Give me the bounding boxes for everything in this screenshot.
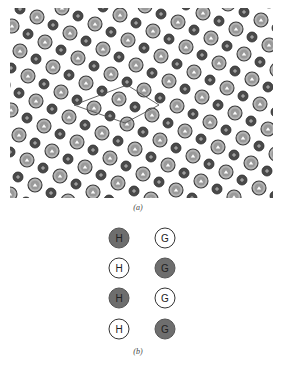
small-atom [138, 127, 148, 137]
large-atom [137, 83, 151, 97]
small-atom [80, 120, 90, 130]
host-guest-diagram: (b) HHHHGGGG [0, 220, 282, 366]
large-atom [21, 69, 35, 83]
small-atom [15, 4, 25, 14]
small-atom [71, 179, 81, 189]
large-atom [162, 74, 176, 88]
large-atom [219, 165, 233, 179]
small-atom [272, 23, 282, 33]
large-atom [212, 56, 226, 70]
small-atom [246, 116, 256, 126]
large-atom [186, 149, 200, 163]
small-atom [47, 104, 57, 114]
triangle-mark-icon [226, 2, 230, 5]
large-atom [13, 44, 27, 58]
large-atom [30, 10, 44, 24]
large-atom [28, 178, 42, 192]
large-atom [237, 47, 251, 61]
small-atom [139, 43, 149, 53]
large-atom [71, 51, 85, 65]
small-atom [197, 50, 207, 60]
small-atom [213, 100, 223, 110]
small-atom [98, 2, 108, 12]
plus-mark-icon [184, 3, 188, 7]
large-atom [79, 76, 93, 90]
small-atom [56, 45, 66, 55]
small-atom [237, 175, 247, 185]
small-atom [172, 59, 182, 69]
guest-circle-empty: G [155, 288, 176, 309]
large-atom [187, 65, 201, 79]
host-circle-filled: H [109, 228, 130, 249]
small-atom [239, 7, 249, 17]
triangle-mark-icon [1, 83, 5, 86]
large-atom [86, 185, 100, 199]
small-atom [13, 172, 23, 182]
plus-mark-icon [1, 41, 5, 45]
large-atom [38, 35, 52, 49]
large-atom [211, 140, 225, 154]
small-atom [146, 152, 156, 162]
lattice-points [0, 0, 282, 210]
large-atom [171, 15, 185, 29]
plus-mark-icon [107, 198, 111, 202]
small-atom [156, 9, 166, 19]
large-atom [269, 147, 282, 161]
small-atom [21, 197, 31, 207]
large-atom [12, 128, 26, 142]
small-atom [238, 91, 248, 101]
large-atom [245, 72, 259, 86]
small-atom [30, 138, 40, 148]
large-atom [227, 190, 241, 204]
small-atom [6, 63, 16, 73]
small-atom [245, 200, 255, 210]
large-atom [154, 49, 168, 63]
large-atom [153, 133, 167, 147]
small-atom [23, 29, 33, 39]
small-atom [181, 0, 191, 10]
small-atom [22, 113, 32, 123]
small-atom [155, 93, 165, 103]
large-atom [178, 124, 192, 138]
large-atom [37, 119, 51, 133]
triangle-mark-icon [274, 152, 278, 155]
plus-mark-icon [274, 110, 278, 114]
large-atom [194, 174, 208, 188]
small-atom [38, 163, 48, 173]
small-atom [154, 177, 164, 187]
triangle-mark-icon [275, 68, 279, 71]
lattice-diagram [0, 0, 282, 220]
large-atom [170, 99, 184, 113]
small-atom [14, 88, 24, 98]
large-atom [229, 22, 243, 36]
plus-mark-icon [248, 203, 252, 207]
large-atom [129, 58, 143, 72]
large-atom [252, 181, 266, 195]
large-atom [244, 156, 258, 170]
small-atom [39, 79, 49, 89]
small-atom [270, 191, 280, 201]
large-atom [61, 194, 75, 208]
small-atom [96, 170, 106, 180]
small-atom [131, 18, 141, 28]
large-atom [55, 1, 69, 15]
large-atom [221, 0, 235, 11]
guest-circle-filled: G [155, 319, 176, 340]
large-atom [95, 126, 109, 140]
small-atom [31, 54, 41, 64]
large-atom [63, 26, 77, 40]
plus-mark-icon [273, 194, 277, 198]
large-atom [111, 176, 125, 190]
large-atom [3, 187, 17, 201]
guest-circle-empty: G [155, 228, 176, 249]
host-circle-filled: H [109, 288, 130, 309]
large-atom [46, 60, 60, 74]
large-atom [96, 42, 110, 56]
small-atom [147, 68, 157, 78]
figure-b-caption: (b) [133, 347, 142, 356]
large-atom [203, 115, 217, 129]
large-atom [196, 6, 210, 20]
large-atom [145, 108, 159, 122]
small-atom [187, 193, 197, 203]
small-atom [204, 159, 214, 169]
